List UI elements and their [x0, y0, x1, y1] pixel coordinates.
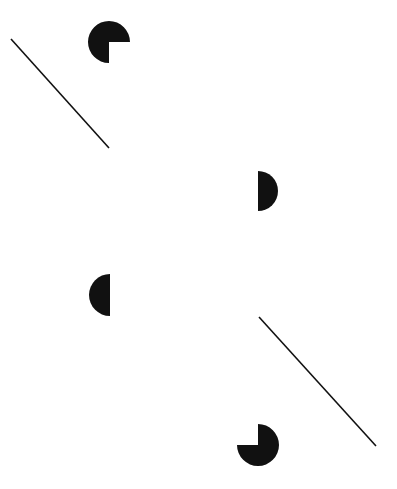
lines-layer	[11, 39, 376, 446]
illusory-contour-figure	[0, 0, 397, 489]
right-half-disc	[258, 171, 278, 211]
bottom-pacman	[237, 424, 279, 466]
lower-right-line	[259, 317, 376, 446]
top-pacman	[88, 21, 130, 63]
left-half-disc	[89, 274, 110, 316]
shapes-layer	[88, 21, 279, 466]
